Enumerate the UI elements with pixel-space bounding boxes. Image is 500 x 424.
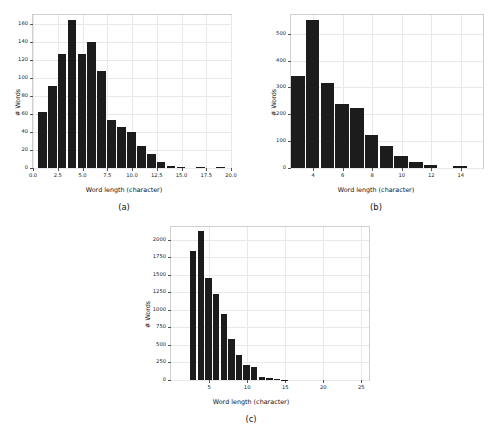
histogram-bar — [38, 112, 47, 168]
y-axis-tick-label: 0 — [283, 165, 286, 170]
histogram-bar — [213, 294, 219, 380]
x-axis-tick-label: 10 — [398, 173, 405, 178]
x-axis-tick — [402, 168, 403, 171]
y-axis-tick — [288, 168, 291, 169]
gridline-vertical — [402, 15, 403, 168]
x-axis-tick — [83, 168, 84, 171]
histogram-bar — [424, 165, 438, 168]
y-axis-tick-label: 0 — [25, 165, 28, 170]
histogram-bar — [306, 20, 320, 168]
panel-a-axes: 0204060801001201401600.02.55.07.510.012.… — [32, 14, 232, 169]
histogram-bar — [107, 120, 116, 168]
histogram-bar — [228, 339, 234, 380]
gridline-horizontal — [291, 34, 483, 35]
gridline-vertical — [461, 15, 462, 168]
histogram-bar — [190, 251, 196, 380]
gridline-vertical — [157, 15, 158, 168]
y-axis-tick-label: 500 — [276, 31, 286, 36]
panel-b-ylabel: # Words — [270, 89, 278, 116]
x-axis-tick — [285, 380, 286, 383]
x-axis-tick — [343, 168, 344, 171]
x-axis-tick — [313, 168, 314, 171]
figure-three-histograms: 0204060801001201401600.02.55.07.510.012.… — [0, 0, 500, 424]
gridline-horizontal — [171, 380, 369, 381]
histogram-bar — [335, 104, 349, 168]
x-axis-tick-label: 6 — [341, 173, 344, 178]
gridline-vertical — [323, 227, 324, 380]
x-axis-tick-label: 20.0 — [225, 173, 237, 178]
x-axis-tick-label: 20 — [320, 385, 327, 390]
x-axis-tick — [247, 380, 248, 383]
y-axis-tick — [168, 275, 171, 276]
panel-a-xlabel: Word length (character) — [4, 186, 244, 194]
histogram-bar — [274, 379, 280, 380]
x-axis-tick-label: 0.0 — [29, 173, 37, 178]
panel-b: 0100200300400500468101214 # Words Word l… — [256, 6, 496, 218]
histogram-bar — [147, 154, 156, 168]
x-axis-tick — [231, 168, 232, 171]
y-axis-tick-label: 60 — [21, 111, 28, 116]
y-axis-tick — [168, 257, 171, 258]
histogram-bar — [127, 132, 136, 168]
histogram-bar — [259, 377, 265, 380]
y-axis-tick-label: 250 — [156, 360, 166, 365]
panel-b-axes: 0100200300400500468101214 — [290, 14, 484, 169]
x-axis-tick-label: 17.5 — [200, 173, 212, 178]
histogram-bar — [97, 71, 106, 168]
y-axis-tick — [168, 362, 171, 363]
histogram-bar — [198, 231, 204, 380]
gridline-vertical — [206, 15, 207, 168]
y-axis-tick-label: 140 — [18, 39, 28, 44]
x-axis-tick — [323, 380, 324, 383]
histogram-bar — [157, 162, 166, 168]
y-axis-tick-label: 160 — [18, 21, 28, 26]
histogram-bar — [177, 167, 186, 168]
x-axis-tick-label: 5 — [207, 385, 210, 390]
gridline-vertical — [33, 15, 34, 168]
x-axis-tick-label: 12.5 — [151, 173, 163, 178]
histogram-bar — [236, 355, 242, 380]
y-axis-tick-label: 80 — [21, 93, 28, 98]
gridline-horizontal — [291, 61, 483, 62]
y-axis-tick — [288, 34, 291, 35]
y-axis-tick-label: 1000 — [153, 307, 166, 312]
panel-a: 0204060801001201401600.02.55.07.510.012.… — [4, 6, 244, 218]
y-axis-tick — [168, 345, 171, 346]
x-axis-tick-label: 10 — [244, 385, 251, 390]
histogram-bar — [380, 146, 394, 168]
x-axis-tick-label: 14 — [458, 173, 465, 178]
x-axis-tick-label: 7.5 — [103, 173, 111, 178]
x-axis-tick-label: 15.0 — [176, 173, 188, 178]
x-axis-tick — [182, 168, 183, 171]
histogram-bar — [350, 108, 364, 168]
histogram-bar — [167, 166, 176, 168]
y-axis-tick-label: 1250 — [153, 290, 166, 295]
y-axis-tick-label: 100 — [18, 75, 28, 80]
x-axis-tick — [372, 168, 373, 171]
x-axis-tick-label: 15 — [282, 385, 289, 390]
x-axis-tick — [461, 168, 462, 171]
x-axis-tick — [107, 168, 108, 171]
x-axis-tick-label: 8 — [371, 173, 374, 178]
histogram-bar — [409, 162, 423, 168]
gridline-vertical — [361, 227, 362, 380]
histogram-bar — [251, 367, 257, 380]
x-axis-tick-label: 12 — [428, 173, 435, 178]
y-axis-tick-label: 120 — [18, 57, 28, 62]
panel-c-caption: (c) — [126, 414, 376, 424]
y-axis-tick-label: 750 — [156, 325, 166, 330]
histogram-bar — [243, 365, 249, 380]
y-axis-tick — [288, 61, 291, 62]
y-axis-tick-label: 2000 — [153, 237, 166, 242]
gridline-vertical — [285, 227, 286, 380]
gridline-horizontal — [291, 168, 483, 169]
histogram-bar — [216, 167, 225, 168]
y-axis-tick-label: 40 — [21, 129, 28, 134]
histogram-bar — [221, 314, 227, 380]
y-axis-tick-label: 0 — [163, 377, 166, 382]
gridline-vertical — [182, 15, 183, 168]
x-axis-tick — [209, 380, 210, 383]
x-axis-tick — [132, 168, 133, 171]
panel-b-xlabel: Word length (character) — [256, 186, 496, 194]
histogram-bar — [321, 83, 335, 168]
